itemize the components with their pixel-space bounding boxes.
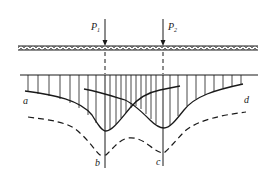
curve-label-c: c (156, 156, 161, 167)
load-arrow-p1 (103, 19, 108, 46)
stress-diagram: P1 P2 (0, 0, 272, 186)
curve-label-b: b (95, 157, 100, 168)
ground-surface (18, 46, 258, 50)
stress-ordinates (28, 75, 241, 129)
curve-label-a: a (23, 95, 28, 106)
load-centerline (105, 75, 163, 168)
load-label-p2: P2 (167, 21, 177, 33)
load-label-p1: P1 (90, 21, 100, 33)
load-arrow-p2 (161, 19, 166, 46)
curve-label-d: d (244, 94, 250, 105)
load-axis-dashed (105, 52, 163, 74)
combined-stress-curve (28, 112, 246, 155)
